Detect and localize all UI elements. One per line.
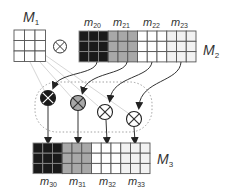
matrix-M1 [14,30,46,62]
matrix-cell [79,31,89,41]
matrix-cell [53,143,63,153]
matrix-M2 [79,31,196,62]
label-m23: m23 [171,16,188,29]
matrix-cell [131,163,141,173]
label-m33: m33 [128,175,145,188]
matrix-cell [43,163,53,173]
matrix-cell [82,163,92,173]
matrix-cell [89,31,99,41]
matrix-cell [79,41,89,51]
matrix-cell [101,163,111,173]
matrix-cell [138,52,148,62]
matrix-cell [118,41,128,51]
matrix-cell [33,153,43,163]
label-m30: m30 [40,175,57,188]
matrix-cell [25,41,36,52]
matrix-cell [101,153,111,163]
multiply-node-4-icon [127,112,142,127]
matrix-cell [99,52,109,62]
matrix-cell [33,163,43,173]
multiply-node-1-icon [41,91,56,106]
matrix-cell [72,153,82,163]
matrix-cell [53,163,63,173]
matrix-cell [140,143,150,153]
matrix-cell [131,143,141,153]
matrix-cell [89,41,99,51]
down-arrows [48,106,135,141]
matrix-cell [186,52,196,62]
label-M1: M1 [23,9,40,27]
matrix-cell [121,153,131,163]
matrix-cell [138,41,148,51]
matrix-cell [108,41,118,51]
label-m22: m22 [143,16,160,29]
label-m20: m20 [84,16,101,29]
matrix-cell [92,163,102,173]
matrix-cell [121,143,131,153]
matrix-cell [177,31,187,41]
tensor-product-icon [54,40,67,53]
matrix-cell [128,31,138,41]
matrix-cell [111,153,121,163]
matrix-cell [92,153,102,163]
matrix-cell [99,31,109,41]
matrix-cell [128,41,138,51]
multiply-node-2-icon [71,96,86,111]
matrix-cell [147,52,157,62]
matrix-cell [108,52,118,62]
matrix-cell [128,52,138,62]
matrix-cell [35,51,46,62]
matrix-cell [33,143,43,153]
matrix-cell [53,153,63,163]
matrix-cell [99,41,109,51]
matrix-cell [82,153,92,163]
matrix-multiplication-diagram: M1 m20 m21 m22 m23 M2 M3 m30 m31 m32 m33 [0,0,230,191]
matrix-cell [14,30,25,41]
matrix-cell [177,41,187,51]
matrix-cell [147,31,157,41]
matrix-cell [140,153,150,163]
matrix-cell [167,31,177,41]
matrix-cell [121,163,131,173]
matrix-cell [62,163,72,173]
matrix-cell [186,41,196,51]
matrix-cell [82,143,92,153]
label-m31: m31 [69,175,86,188]
matrix-cell [35,30,46,41]
matrix-cell [157,52,167,62]
matrix-cell [157,31,167,41]
matrix-cell [177,52,187,62]
matrix-cell [140,163,150,173]
matrix-cell [167,41,177,51]
matrix-cell [138,31,148,41]
matrix-cell [14,51,25,62]
matrix-cell [118,52,128,62]
arrow-m22 [110,62,152,99]
matrix-cell [62,153,72,163]
matrix-cell [89,52,99,62]
matrix-cell [43,153,53,163]
matrix-cell [92,143,102,153]
matrix-cell [167,52,177,62]
matrix-cell [62,143,72,153]
matrix-cell [111,163,121,173]
label-M2: M2 [203,42,220,60]
matrix-cell [14,41,25,52]
matrix-M3 [33,143,150,174]
label-m21: m21 [113,16,130,29]
matrix-cell [147,41,157,51]
label-M3: M3 [157,151,174,169]
matrix-cell [25,51,36,62]
multiply-node-3-icon [98,105,113,120]
matrix-cell [118,31,128,41]
arrow-m23 [139,62,181,106]
label-m32: m32 [99,175,116,188]
matrix-cell [72,143,82,153]
matrix-cell [43,143,53,153]
matrix-cell [186,31,196,41]
matrix-cell [25,30,36,41]
matrix-cell [101,143,111,153]
matrix-cell [79,52,89,62]
matrix-cell [108,31,118,41]
matrix-cell [111,143,121,153]
